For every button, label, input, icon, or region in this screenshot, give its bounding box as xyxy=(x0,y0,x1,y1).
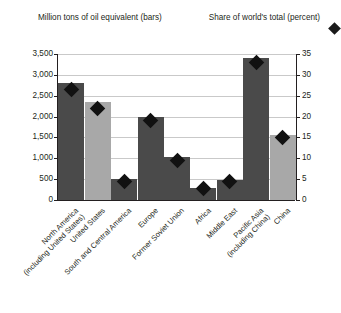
y-axis-tick-label: 3,000 xyxy=(9,71,53,79)
diamond-icon xyxy=(328,22,341,35)
y-axis-tick-label: 500 xyxy=(9,175,53,183)
y2-axis-tick-label: 20 xyxy=(302,113,328,121)
bar xyxy=(270,135,296,200)
y2-axis-tick-mark xyxy=(296,179,300,180)
y2-axis-tick-mark xyxy=(296,75,300,76)
category-label: Africa xyxy=(193,206,213,226)
y2-axis-tick-mark xyxy=(296,54,300,55)
y2-axis-tick-mark xyxy=(296,137,300,138)
y-axis-tick-label: 2,500 xyxy=(9,92,53,100)
category-label: Europe xyxy=(136,206,160,230)
y-axis-tick-label: 3,500 xyxy=(9,50,53,58)
category-label-line: Europe xyxy=(136,206,160,230)
y-axis-tick-mark xyxy=(54,75,58,76)
bar xyxy=(58,83,84,200)
category-label-line: Former Soviet Union xyxy=(130,206,186,262)
y2-axis-tick-label: 5 xyxy=(302,175,328,183)
y2-axis-tick-label: 10 xyxy=(302,154,328,162)
right-axis-caption-line1: Share of world's total xyxy=(209,13,285,22)
y2-axis-tick-label: 30 xyxy=(302,71,328,79)
bar xyxy=(138,117,164,200)
category-label-line: Africa xyxy=(193,206,213,226)
category-labels: North America(including United States)Un… xyxy=(0,200,341,313)
bar xyxy=(85,102,111,200)
category-label: China xyxy=(272,206,293,227)
right-axis-caption-line2: (percent) xyxy=(287,13,320,22)
gridline xyxy=(58,54,296,55)
y-axis-tick-label: 1,500 xyxy=(9,133,53,141)
category-label: Former Soviet Union xyxy=(130,206,186,262)
y2-axis-tick-mark xyxy=(296,158,300,159)
chart-header: Million tons of oil equivalent (bars) Sh… xyxy=(0,0,341,46)
y2-axis-tick-label: 25 xyxy=(302,92,328,100)
left-axis-caption-line1: Million tons of oil equivalent xyxy=(38,13,138,22)
y2-axis-tick-label: 35 xyxy=(302,50,328,58)
y-axis-tick-label: 2,000 xyxy=(9,113,53,121)
y2-axis-tick-mark xyxy=(296,96,300,97)
plot-area: 05001,0001,5002,0002,5003,0003,500051015… xyxy=(57,54,297,200)
category-label-line: China xyxy=(272,206,293,227)
y2-axis-tick-mark xyxy=(296,117,300,118)
left-axis-caption-line2: (bars) xyxy=(140,13,161,22)
bar xyxy=(243,58,269,200)
right-axis-caption: Share of world's total (percent) xyxy=(183,12,333,24)
y-axis-tick-mark xyxy=(54,54,58,55)
y-axis-tick-label: 1,000 xyxy=(9,154,53,162)
y2-axis-tick-label: 15 xyxy=(302,133,328,141)
